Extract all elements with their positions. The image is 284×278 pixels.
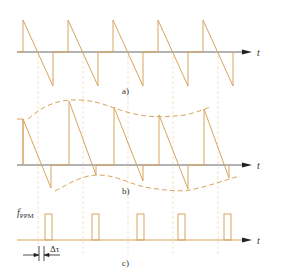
axis-arrow-icon xyxy=(242,163,252,168)
delta-tau-label: Δτ xyxy=(50,244,60,254)
axis-label-b: t xyxy=(257,160,260,171)
envelope-top xyxy=(28,100,210,119)
caption-b: b) xyxy=(122,186,130,196)
axis-arrow-icon xyxy=(242,238,252,243)
ppm-diagram: t a) t b) fPPM Δτ t c) xyxy=(0,0,284,278)
ppm-pulses xyxy=(45,214,231,240)
signal-label-fppm: fPPM xyxy=(17,207,35,220)
axis-arrow-icon xyxy=(242,50,252,55)
panel-a xyxy=(17,20,252,86)
sawtooth-b xyxy=(17,101,229,189)
panel-b xyxy=(17,100,252,191)
caption-c: c) xyxy=(122,258,129,268)
axis-label-a: t xyxy=(257,47,260,58)
axis-label-c: t xyxy=(257,235,260,246)
caption-a: a) xyxy=(122,86,129,96)
sawtooth-a xyxy=(18,20,233,86)
